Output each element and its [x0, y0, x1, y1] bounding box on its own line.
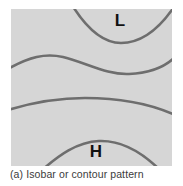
contour-diagram: L H: [11, 9, 172, 166]
figure-caption: (a) Isobar or contour pattern: [10, 168, 180, 180]
contour-panel: L H: [11, 9, 172, 166]
high-pressure-label: H: [90, 142, 102, 161]
low-pressure-label: L: [115, 11, 125, 30]
isobar-contour-figure: L H (a) Isobar or contour pattern: [0, 0, 183, 186]
isobar-line-3-broad-arc: [11, 98, 172, 115]
isobar-line-2-wave: [11, 56, 172, 75]
